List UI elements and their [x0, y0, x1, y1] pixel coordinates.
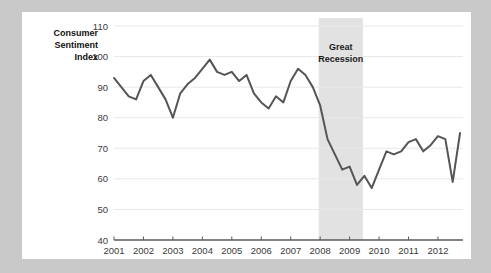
- y-tick-label: 50: [97, 204, 108, 215]
- x-axis-tick-labels: 2001200220032004200520062007200820092010…: [103, 245, 448, 256]
- x-axis-line: [114, 237, 463, 241]
- x-tick-label: 2005: [221, 245, 242, 256]
- y-axis-title: Consumer Sentiment Index: [53, 28, 98, 62]
- x-tick-label: 2011: [398, 245, 418, 256]
- y-tick-label: 90: [97, 82, 108, 93]
- x-tick-label: 2012: [427, 245, 448, 256]
- x-tick-label: 2009: [339, 245, 360, 256]
- y-tick-label: 60: [97, 173, 108, 184]
- chart-plot: 405060708090100110 200120022003200420052…: [22, 12, 471, 259]
- x-tick-label: 2003: [162, 245, 183, 256]
- x-tick-label: 2008: [310, 245, 331, 256]
- y-tick-label: 80: [97, 112, 108, 123]
- series-line: [114, 60, 460, 188]
- x-tick-label: 2006: [251, 245, 272, 256]
- recession-label-line2: Recession: [318, 54, 363, 64]
- y-tick-label: 40: [97, 235, 108, 246]
- data-series-line: [114, 60, 460, 188]
- x-tick-label: 2007: [280, 245, 301, 256]
- x-tick-label: 2002: [133, 245, 154, 256]
- y-tick-label: 70: [97, 143, 108, 154]
- y-axis-title-line3: Index: [74, 52, 98, 62]
- y-axis-title-line1: Consumer: [53, 28, 98, 38]
- x-tick-label: 2004: [192, 245, 213, 256]
- y-axis-title-line2: Sentiment: [54, 40, 98, 50]
- x-tick-label: 2001: [103, 245, 124, 256]
- x-tick-label: 2010: [368, 245, 389, 256]
- chart-card: 405060708090100110 200120022003200420052…: [22, 12, 471, 259]
- recession-label-line1: Great: [329, 42, 353, 52]
- gridlines: [114, 26, 463, 209]
- figure-root: 405060708090100110 200120022003200420052…: [0, 0, 491, 273]
